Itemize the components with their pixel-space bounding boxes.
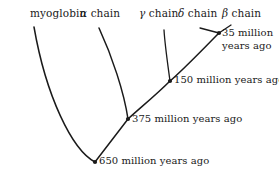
tip-label-myoglobin: myoglobin: [30, 8, 86, 20]
tip-label-suffix-beta: chain: [228, 7, 261, 19]
branch-myoglobin: [34, 27, 95, 162]
tip-label-suffix-delta: chain: [184, 7, 217, 19]
node-age-label-node-650: 650 million years ago: [99, 155, 209, 166]
node-age-line1-node-650: 650 million years ago: [99, 155, 209, 166]
phylogenetic-tree-diagram: myoglobinα chainγ chainδ chainβ chain 35…: [0, 0, 279, 181]
tip-label-beta: β chain: [222, 8, 261, 20]
tip-label-suffix-gamma: chain: [145, 7, 178, 19]
node-age-label-node-375: 375 million years ago: [132, 113, 242, 124]
node-age-line2-node-35: years ago: [222, 40, 273, 53]
tip-label-delta: δ chain: [178, 8, 217, 20]
tip-label-suffix-alpha: chain: [87, 7, 120, 19]
tip-label-alpha: α chain: [80, 8, 120, 20]
node-dot-node-375: [126, 117, 130, 121]
node-dot-node-35: [217, 31, 221, 35]
branch-alpha: [99, 28, 128, 119]
node-age-label-node-35: 35 millionyears ago: [222, 27, 273, 52]
node-age-line1-node-35: 35 million: [222, 27, 273, 40]
branch-gamma: [164, 30, 170, 81]
node-age-line1-node-150: 150 million years ago: [174, 74, 279, 85]
branch-delta: [200, 28, 219, 33]
node-dot-node-650: [93, 160, 97, 164]
node-dot-node-150: [168, 79, 172, 83]
node-age-line1-node-375: 375 million years ago: [132, 113, 242, 124]
node-age-label-node-150: 150 million years ago: [174, 74, 279, 85]
tip-label-gamma: γ chain: [139, 8, 178, 20]
